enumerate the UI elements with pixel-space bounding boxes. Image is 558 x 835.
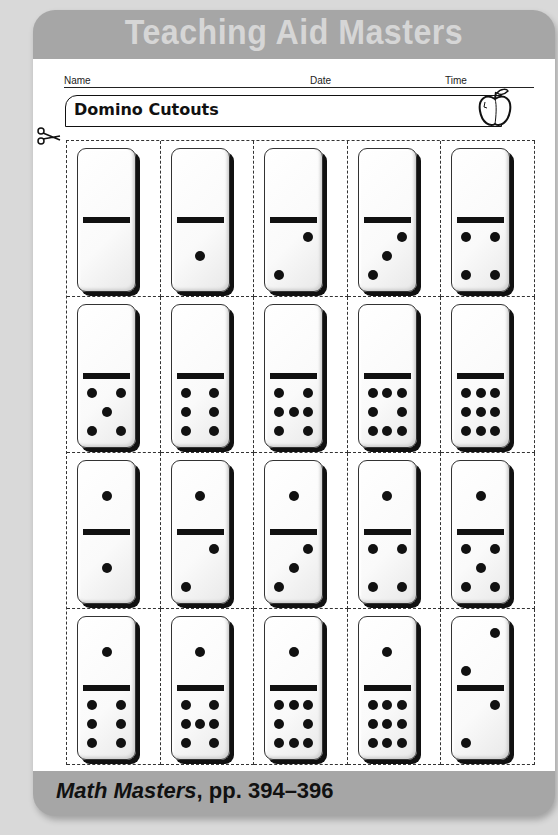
time-label: Time: [445, 75, 467, 86]
pip-dot: [181, 719, 191, 729]
pip-dot: [490, 388, 500, 398]
worksheet-title-box: Domino Cutouts: [65, 95, 502, 127]
pip-dot: [303, 738, 313, 748]
domino-divider: [83, 685, 130, 691]
pip-dot: [181, 700, 191, 710]
pip-dot: [195, 719, 205, 729]
pip-dot: [209, 544, 219, 554]
teaching-aid-card: Teaching Aid Masters Name Date Time Domi…: [33, 10, 555, 816]
domino-1-5: [451, 460, 510, 604]
pip-dot: [274, 719, 284, 729]
pip-dot: [368, 700, 378, 710]
pip-dot: [303, 544, 313, 554]
domino-half-top: [365, 623, 410, 681]
pip-dot: [87, 719, 97, 729]
pip-dot: [303, 407, 313, 417]
domino-cutout-cell: [67, 609, 161, 765]
domino-half-bottom: [84, 383, 129, 441]
name-label: Name: [64, 75, 91, 86]
pip-dot: [461, 232, 471, 242]
pip-dot: [397, 407, 407, 417]
domino-1-1: [77, 460, 136, 604]
domino-1-7: [171, 616, 230, 760]
domino-1-4: [358, 460, 417, 604]
pip-dot: [102, 647, 112, 657]
domino-grid: [66, 140, 535, 765]
domino-half-top: [458, 467, 503, 525]
pip-dot: [490, 270, 500, 280]
domino-half-bottom: [84, 695, 129, 753]
pip-dot: [397, 719, 407, 729]
pip-dot: [382, 388, 392, 398]
pip-dot: [397, 232, 407, 242]
domino-divider: [457, 373, 504, 379]
pip-dot: [382, 251, 392, 261]
pip-dot: [382, 426, 392, 436]
domino-half-top: [178, 467, 223, 525]
domino-1-8: [264, 616, 323, 760]
pip-dot: [490, 700, 500, 710]
pip-dot: [476, 563, 486, 573]
domino-cutout-cell: [348, 453, 442, 609]
domino-half-bottom: [178, 539, 223, 597]
pip-dot: [209, 407, 219, 417]
footer-reference: Math Masters, pp. 394–396: [56, 778, 334, 804]
domino-0-7: [264, 304, 323, 448]
domino-half-bottom: [84, 539, 129, 597]
domino-divider: [270, 217, 317, 223]
apple-icon: [476, 87, 514, 129]
domino-half-bottom: [178, 383, 223, 441]
domino-0-8: [358, 304, 417, 448]
domino-0-9: [451, 304, 510, 448]
pip-dot: [181, 426, 191, 436]
pip-dot: [476, 407, 486, 417]
domino-cutout-cell: [67, 453, 161, 609]
domino-divider: [364, 373, 411, 379]
domino-divider: [83, 217, 130, 223]
domino-divider: [83, 373, 130, 379]
domino-divider: [177, 217, 224, 223]
domino-half-bottom: [271, 539, 316, 597]
pip-dot: [382, 738, 392, 748]
pip-dot: [289, 647, 299, 657]
domino-half-bottom: [271, 227, 316, 285]
domino-divider: [364, 529, 411, 535]
pip-dot: [303, 388, 313, 398]
domino-half-top: [458, 623, 503, 681]
pip-dot: [289, 700, 299, 710]
domino-divider: [364, 685, 411, 691]
domino-0-4: [451, 148, 510, 292]
pip-dot: [274, 388, 284, 398]
pip-dot: [382, 491, 392, 501]
pip-dot: [382, 647, 392, 657]
domino-half-top: [84, 623, 129, 681]
pip-dot: [490, 544, 500, 554]
domino-half-top: [178, 311, 223, 369]
domino-0-6: [171, 304, 230, 448]
domino-half-top: [365, 467, 410, 525]
domino-divider: [270, 685, 317, 691]
pip-dot: [368, 738, 378, 748]
domino-half-top: [271, 623, 316, 681]
pip-dot: [195, 647, 205, 657]
domino-divider: [457, 217, 504, 223]
scissors-icon: [36, 127, 62, 145]
pip-dot: [209, 738, 219, 748]
pip-dot: [303, 232, 313, 242]
pip-dot: [382, 719, 392, 729]
header-band: Teaching Aid Masters: [33, 10, 555, 59]
name-date-time-line: Name Date Time: [64, 71, 534, 88]
domino-cutout-cell: [441, 453, 535, 609]
pip-dot: [87, 388, 97, 398]
pip-dot: [87, 738, 97, 748]
domino-0-5: [77, 304, 136, 448]
pip-dot: [209, 719, 219, 729]
pip-dot: [181, 407, 191, 417]
domino-cutout-cell: [441, 609, 535, 765]
domino-half-bottom: [458, 539, 503, 597]
pip-dot: [397, 582, 407, 592]
domino-cutout-cell: [254, 141, 348, 297]
pip-dot: [289, 563, 299, 573]
pip-dot: [116, 426, 126, 436]
pip-dot: [382, 700, 392, 710]
